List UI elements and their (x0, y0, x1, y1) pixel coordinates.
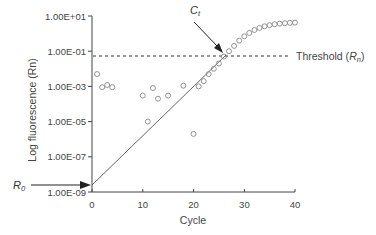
data-point (166, 93, 171, 98)
data-point (95, 72, 100, 77)
x-axis-title: Cycle (180, 214, 206, 226)
data-point (105, 83, 110, 88)
y-tick-label: 1.00E-05 (47, 116, 86, 127)
data-point (156, 96, 161, 101)
data-point (287, 20, 292, 25)
data-points (95, 20, 298, 136)
y-tick-labels: 1.00E+01 1.00E-01 1.00E-03 1.00E-05 1.00… (45, 11, 86, 198)
data-point (232, 43, 237, 48)
x-tick-label: 20 (188, 199, 199, 210)
data-point (110, 85, 115, 90)
y-tick-label: 1.00E+01 (45, 11, 86, 22)
data-point (237, 38, 242, 43)
data-point (247, 30, 252, 35)
data-point (252, 28, 257, 33)
y-ticks (88, 16, 92, 192)
y-tick-label: 1.00E-01 (47, 46, 86, 57)
data-point (242, 34, 247, 39)
data-point (100, 85, 105, 90)
threshold-label: Threshold (Rn) (296, 50, 364, 64)
data-point (150, 86, 155, 91)
data-point (140, 93, 145, 98)
x-tick-label: 10 (138, 199, 149, 210)
data-point (196, 84, 201, 89)
y-tick-label: 1.00E-03 (47, 81, 86, 92)
data-point (267, 23, 272, 28)
data-point (227, 49, 232, 54)
data-point (282, 21, 287, 26)
y-axis-title: Log fluorescence (Rn) (26, 58, 38, 161)
data-point (201, 79, 206, 84)
data-point (277, 21, 282, 26)
data-point (293, 20, 298, 25)
x-tick-label: 0 (89, 199, 94, 210)
x-tick-labels: 0 10 20 30 40 (89, 199, 300, 210)
data-point (272, 22, 277, 27)
data-point (145, 119, 150, 124)
x-tick-label: 40 (290, 199, 301, 210)
data-point (181, 83, 186, 88)
x-tick-label: 30 (239, 199, 250, 210)
data-point (257, 25, 262, 30)
y-tick-label: 1.00E-07 (47, 151, 86, 162)
r0-label: R0 (13, 179, 26, 193)
data-point (262, 24, 267, 29)
ct-arrow-shaft (194, 22, 219, 48)
qpcr-amplification-chart: 1.00E+01 1.00E-01 1.00E-03 1.00E-05 1.00… (0, 0, 376, 235)
data-point (191, 131, 196, 136)
ct-label: Ct (190, 4, 201, 18)
